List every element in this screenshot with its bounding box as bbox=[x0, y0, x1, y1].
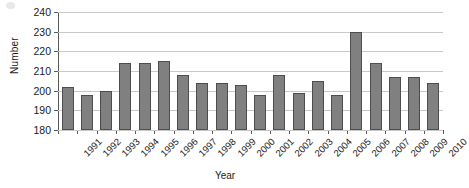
x-tick-label-1998: 1998 bbox=[216, 136, 239, 159]
y-tick-label-190: 190 bbox=[33, 104, 51, 116]
x-tick-mark-1993 bbox=[116, 131, 117, 134]
y-tick-label-240: 240 bbox=[33, 6, 51, 18]
x-tick-label-2009: 2009 bbox=[427, 136, 450, 159]
bar-1999 bbox=[216, 83, 228, 130]
x-tick-label-2003: 2003 bbox=[312, 136, 335, 159]
x-tick-mark-2001 bbox=[270, 131, 271, 134]
x-tick-label-1991: 1991 bbox=[81, 136, 104, 159]
bar-1996 bbox=[158, 61, 170, 130]
x-tick-label-2007: 2007 bbox=[389, 136, 412, 159]
x-tick-mark-1995 bbox=[154, 131, 155, 134]
x-tick-mark-1999 bbox=[231, 131, 232, 134]
x-tick-label-2000: 2000 bbox=[254, 136, 277, 159]
bar-1993 bbox=[100, 91, 112, 130]
x-tick-label-2005: 2005 bbox=[350, 136, 373, 159]
bar-2009 bbox=[408, 77, 420, 130]
x-tick-mark-1992 bbox=[97, 131, 98, 134]
bar-2002 bbox=[273, 75, 285, 130]
bar-1992 bbox=[81, 95, 93, 130]
x-tick-label-1999: 1999 bbox=[235, 136, 258, 159]
x-tick-label-2008: 2008 bbox=[408, 136, 431, 159]
y-axis-title: Number bbox=[9, 16, 20, 96]
x-tick-label-2001: 2001 bbox=[273, 136, 296, 159]
plot-area: 240230220210200190180 bbox=[58, 12, 443, 130]
x-tick-mark-1997 bbox=[193, 131, 194, 134]
y-tick-label-200: 200 bbox=[33, 85, 51, 97]
bar-2000 bbox=[235, 85, 247, 130]
bar-1997 bbox=[177, 75, 189, 130]
x-tick-label-1997: 1997 bbox=[196, 136, 219, 159]
y-tick-label-230: 230 bbox=[33, 26, 51, 38]
x-tick-label-1993: 1993 bbox=[119, 136, 142, 159]
x-tick-mark-origin bbox=[58, 131, 59, 134]
bar-1995 bbox=[139, 63, 151, 130]
bars-group bbox=[58, 12, 443, 130]
x-tick-label-2010: 2010 bbox=[447, 136, 469, 159]
bar-2006 bbox=[350, 32, 362, 130]
x-axis-labels-group: 1991199219931994199519961997199819992000… bbox=[58, 131, 443, 171]
x-tick-mark-1998 bbox=[212, 131, 213, 134]
bar-2005 bbox=[331, 95, 343, 130]
bar-1994 bbox=[119, 63, 131, 130]
y-tick-label-210: 210 bbox=[33, 65, 51, 77]
x-tick-mark-2010 bbox=[443, 131, 444, 134]
x-tick-label-1995: 1995 bbox=[158, 136, 181, 159]
x-tick-mark-2008 bbox=[405, 131, 406, 134]
scan-artifact bbox=[6, 2, 15, 9]
x-tick-mark-1994 bbox=[135, 131, 136, 134]
x-tick-mark-2009 bbox=[424, 131, 425, 134]
x-tick-label-2004: 2004 bbox=[331, 136, 354, 159]
bar-2007 bbox=[370, 63, 382, 130]
x-tick-mark-1991 bbox=[77, 131, 78, 134]
x-tick-mark-2003 bbox=[308, 131, 309, 134]
bar-2008 bbox=[389, 77, 401, 130]
x-tick-label-2002: 2002 bbox=[293, 136, 316, 159]
y-tick-label-220: 220 bbox=[33, 45, 51, 57]
x-tick-label-1994: 1994 bbox=[139, 136, 162, 159]
x-tick-mark-2005 bbox=[347, 131, 348, 134]
x-axis-title: Year bbox=[0, 170, 450, 181]
bar-1991 bbox=[62, 87, 74, 130]
x-tick-mark-2006 bbox=[366, 131, 367, 134]
x-tick-label-2006: 2006 bbox=[370, 136, 393, 159]
y-tick-label-180: 180 bbox=[33, 124, 51, 136]
x-tick-mark-2002 bbox=[289, 131, 290, 134]
x-tick-label-1992: 1992 bbox=[100, 136, 123, 159]
bar-1998 bbox=[196, 83, 208, 130]
x-tick-mark-2004 bbox=[328, 131, 329, 134]
x-tick-label-1996: 1996 bbox=[177, 136, 200, 159]
bar-2003 bbox=[293, 93, 305, 130]
x-tick-mark-2000 bbox=[251, 131, 252, 134]
bar-2010 bbox=[427, 83, 439, 130]
x-tick-mark-1996 bbox=[174, 131, 175, 134]
x-tick-mark-2007 bbox=[385, 131, 386, 134]
bar-2001 bbox=[254, 95, 266, 130]
bar-2004 bbox=[312, 81, 324, 130]
